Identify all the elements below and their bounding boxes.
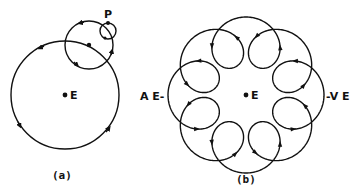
arrow-icon (278, 141, 282, 147)
caption-b: (b) (236, 173, 256, 186)
panel-a (11, 21, 119, 149)
caption-a: (a) (52, 169, 72, 182)
arrow-icon (292, 59, 298, 63)
arrow-icon (111, 51, 112, 55)
planet-label-p: P (104, 8, 112, 21)
arrow-icon (195, 58, 201, 63)
earth-label-a: E (70, 89, 78, 102)
arrow-icon (210, 43, 214, 49)
small-epicycle-dot (106, 21, 110, 25)
earth-dot-a (63, 93, 68, 98)
right-label: -V E (326, 90, 350, 103)
arrow-icon (80, 22, 84, 23)
arrow-icon (18, 122, 20, 126)
arrow-icon (209, 140, 214, 146)
arrow-icon (291, 127, 297, 132)
arrow-icon (194, 127, 200, 131)
small-epicycle-dot-2 (104, 37, 107, 40)
earth-dot-b (244, 93, 249, 98)
epicycle-center-dot (87, 43, 91, 47)
left-label: A E- (140, 90, 164, 103)
arrow-icon (278, 44, 283, 50)
earth-label-b: E (251, 89, 259, 102)
epicycle-diagram: E P (a) E A E- -V E (b) (0, 0, 354, 187)
